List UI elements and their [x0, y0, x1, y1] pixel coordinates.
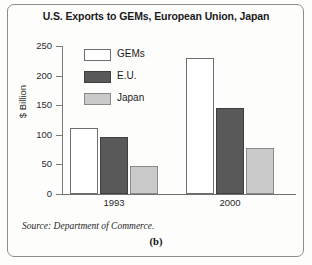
y-tick-label: 0: [18, 188, 52, 199]
y-tick-mark: [56, 105, 62, 106]
y-tick-label: 200: [18, 70, 52, 81]
bar-japan-2000: [246, 148, 274, 194]
y-tick-mark: [56, 164, 62, 165]
bar-eu-1993: [100, 137, 128, 194]
legend-swatch-japan: [84, 93, 111, 105]
y-tick-label: 150: [18, 99, 52, 110]
bar-japan-1993: [130, 166, 158, 194]
legend-swatch-eu: [84, 71, 111, 83]
y-axis-line: [62, 46, 63, 195]
legend-swatch-gems: [84, 49, 111, 61]
legend-label: E.U.: [117, 70, 136, 81]
x-axis-line: [62, 194, 296, 195]
bar-eu-2000: [216, 108, 244, 194]
legend-label: Japan: [117, 92, 144, 103]
bar-gems-2000: [186, 58, 214, 194]
y-tick-mark: [56, 46, 62, 47]
source-note: Source: Department of Commerce.: [22, 221, 154, 231]
chart-title: U.S. Exports to GEMs, European Union, Ja…: [0, 10, 312, 22]
x-axis-label-1993: 1993: [79, 197, 149, 208]
y-tick-mark: [56, 135, 62, 136]
bar-gems-1993: [70, 128, 98, 194]
x-axis-label-2000: 2000: [195, 197, 265, 208]
y-tick-label: 250: [18, 40, 52, 51]
legend-label: GEMs: [117, 48, 145, 59]
y-tick-label: 100: [18, 129, 52, 140]
y-tick-label: 50: [18, 158, 52, 169]
figure-panel: U.S. Exports to GEMs, European Union, Ja…: [0, 0, 312, 265]
panel-label: (b): [0, 236, 312, 247]
y-tick-mark: [56, 76, 62, 77]
y-tick-mark: [56, 194, 62, 195]
